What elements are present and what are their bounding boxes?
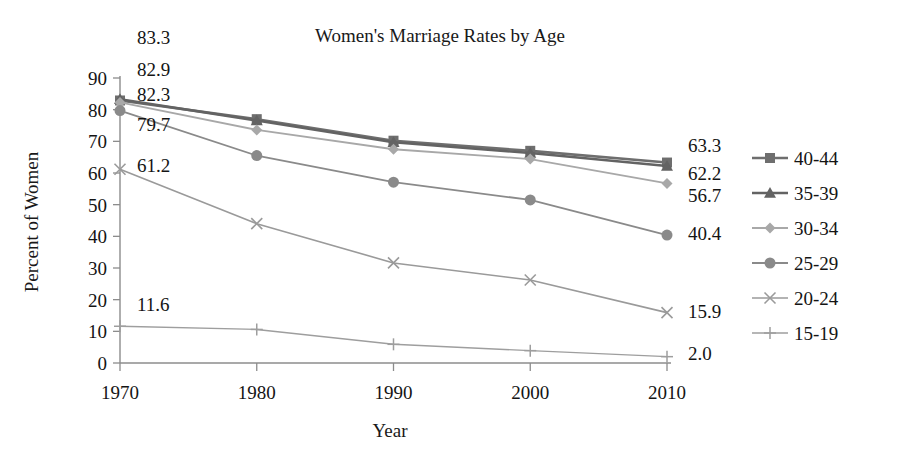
right-value-label: 56.7 — [688, 185, 721, 206]
value-labels-group: 83.382.982.379.761.211.663.362.256.740.4… — [137, 27, 722, 364]
legend-item-30-34[interactable]: 30-34 — [752, 218, 839, 239]
legend-item-20-24[interactable]: 20-24 — [752, 288, 839, 309]
marker-plus — [764, 327, 776, 339]
legend-item-15-19[interactable]: 15-19 — [752, 323, 838, 344]
series-40-44 — [115, 95, 672, 167]
left-value-label: 82.3 — [137, 84, 170, 105]
right-value-label: 2.0 — [688, 343, 712, 364]
marker-plus — [388, 338, 400, 350]
marker-diamond — [765, 223, 776, 234]
series-25-29 — [115, 105, 673, 240]
marker-plus — [524, 345, 536, 357]
legend-item-35-39[interactable]: 35-39 — [752, 183, 838, 204]
legend-label-15-19: 15-19 — [794, 323, 838, 344]
x-tick-label: 1990 — [375, 382, 413, 403]
y-tick-label: 10 — [88, 321, 107, 342]
marker-plus — [251, 323, 263, 335]
legend-label-40-44: 40-44 — [794, 148, 839, 169]
marker-circle — [251, 150, 262, 161]
axes-group — [113, 76, 671, 371]
x-tick-label: 2010 — [648, 382, 686, 403]
marker-circle — [662, 230, 673, 241]
y-tick-label: 70 — [88, 131, 107, 152]
y-tick-label: 20 — [88, 290, 107, 311]
marker-circle — [115, 105, 126, 116]
marker-plus — [114, 320, 126, 332]
legend: 40-4435-3930-3425-2920-2415-19 — [752, 148, 839, 344]
marker-diamond — [662, 178, 673, 189]
series-group — [114, 93, 673, 362]
legend-item-40-44[interactable]: 40-44 — [752, 148, 839, 169]
series-line-20-24 — [120, 169, 667, 312]
x-tick-label: 1980 — [238, 382, 276, 403]
y-tick-label: 60 — [88, 163, 107, 184]
legend-item-25-29[interactable]: 25-29 — [752, 253, 838, 274]
right-value-label: 40.4 — [688, 223, 722, 244]
series-35-39 — [114, 93, 673, 171]
marker-circle — [388, 177, 399, 188]
y-tick-label: 50 — [88, 195, 107, 216]
legend-label-30-34: 30-34 — [794, 218, 839, 239]
marker-x — [662, 307, 673, 318]
y-tick-label: 80 — [88, 100, 107, 121]
chart-title: Women's Marriage Rates by Age — [315, 25, 565, 46]
right-value-label: 62.2 — [688, 163, 721, 184]
y-tick-label: 90 — [88, 68, 107, 89]
series-15-19 — [114, 320, 673, 362]
marker-square — [765, 153, 775, 163]
left-value-label: 83.3 — [137, 27, 170, 48]
legend-label-25-29: 25-29 — [794, 253, 838, 274]
y-tick-label: 30 — [88, 258, 107, 279]
y-axis-title: Percent of Women — [21, 151, 42, 292]
tick-labels-group: 010203040506070809019701980199020002010 — [88, 68, 686, 403]
y-tick-label: 40 — [88, 226, 107, 247]
marker-diamond — [251, 124, 262, 135]
x-tick-label: 1970 — [101, 382, 139, 403]
marker-circle — [765, 258, 776, 269]
right-value-label: 15.9 — [688, 301, 721, 322]
left-value-label: 11.6 — [137, 294, 170, 315]
x-axis-title: Year — [372, 420, 408, 441]
right-value-label: 63.3 — [688, 135, 721, 156]
legend-label-35-39: 35-39 — [794, 183, 838, 204]
chart-container: 010203040506070809019701980199020002010 … — [0, 0, 908, 460]
y-tick-label: 0 — [98, 353, 108, 374]
left-value-label: 79.7 — [137, 114, 170, 135]
marker-plus — [661, 351, 673, 363]
left-value-label: 61.2 — [137, 155, 170, 176]
marker-circle — [525, 194, 536, 205]
x-tick-label: 2000 — [511, 382, 549, 403]
line-chart: 010203040506070809019701980199020002010 … — [0, 0, 908, 460]
marker-x — [251, 218, 262, 229]
legend-label-20-24: 20-24 — [794, 288, 839, 309]
left-value-label: 82.9 — [137, 59, 170, 80]
series-line-25-29 — [120, 111, 667, 235]
